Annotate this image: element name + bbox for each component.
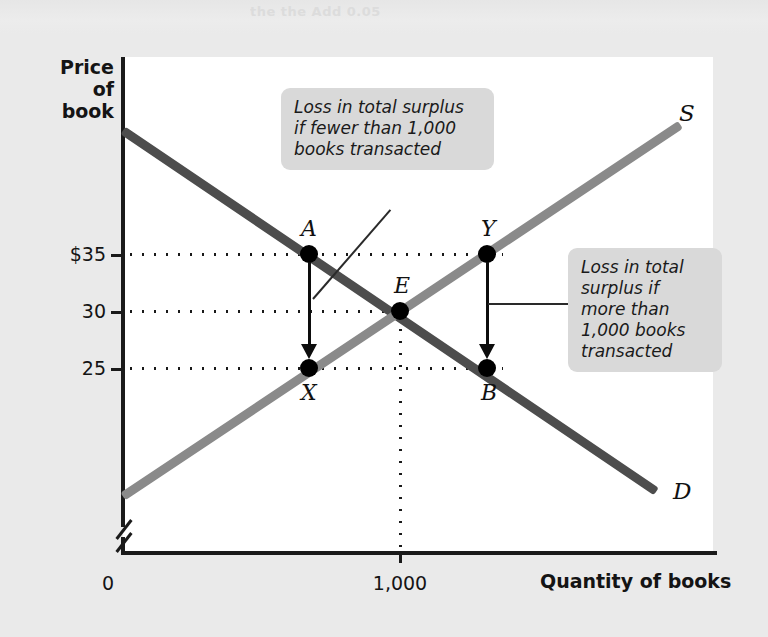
x-axis-line	[121, 551, 717, 555]
point-label-e: E	[394, 273, 410, 298]
y-axis-title: Price of book	[42, 56, 114, 122]
y-axis-title-line2: of book	[42, 78, 114, 122]
callout-loss-more-than-1000: Loss in total surplus if more than 1,000…	[568, 248, 722, 372]
callout-right-line5: transacted	[581, 341, 709, 362]
demand-curve-label: D	[673, 478, 691, 504]
economics-supply-demand-figure: the the Add 0.05 Price of book Quantity …	[0, 0, 768, 637]
y-tick-mark-25	[111, 368, 123, 371]
point-dot-a	[300, 245, 318, 263]
callout-right-line2: surplus if	[581, 278, 709, 299]
arrow-head-a-to-x	[301, 344, 317, 359]
x-axis-title: Quantity of books	[540, 570, 731, 592]
y-tick-label-35: $35	[28, 243, 106, 265]
arrow-shaft-a-to-x	[308, 262, 311, 347]
gridline-price-30	[125, 310, 403, 313]
callout-right-line1: Loss in total	[581, 257, 709, 278]
point-label-y: Y	[481, 216, 496, 241]
point-label-x: X	[301, 380, 317, 405]
bleed-through-text: the the Add 0.05	[250, 4, 670, 19]
point-label-a: A	[301, 216, 317, 241]
callout-loss-fewer-than-1000: Loss in total surplus if fewer than 1,00…	[281, 88, 494, 170]
callout-left-line1: Loss in total surplus	[294, 97, 481, 118]
supply-curve-label: S	[679, 100, 695, 126]
callout-right-line3: more than	[581, 299, 709, 320]
point-dot-y	[478, 245, 496, 263]
arrow-head-y-to-b	[479, 344, 495, 359]
callout-right-line4: 1,000 books	[581, 320, 709, 341]
y-tick-mark-35	[111, 254, 123, 257]
x-tick-label-0: 0	[88, 572, 128, 594]
x-tick-label-1000: 1,000	[355, 572, 445, 594]
callout-left-line2: if fewer than 1,000	[294, 118, 481, 139]
gridline-quantity-1000	[399, 312, 402, 552]
y-tick-mark-30	[111, 311, 123, 314]
y-tick-label-30: 30	[28, 300, 106, 322]
point-dot-b	[478, 359, 496, 377]
point-dot-x	[300, 359, 318, 377]
callout-left-line3: books transacted	[294, 139, 481, 160]
y-axis-title-line1: Price	[42, 56, 114, 78]
point-dot-e	[391, 302, 409, 320]
y-tick-label-25: 25	[28, 357, 106, 379]
point-label-b: B	[481, 380, 497, 405]
leader-line-right-callout	[488, 303, 570, 305]
x-tick-mark-1000	[399, 552, 402, 563]
